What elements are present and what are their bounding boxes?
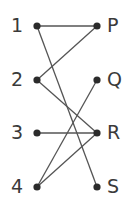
node-dot-R <box>93 129 100 136</box>
node-dot-4 <box>33 183 40 190</box>
node-label-P: P <box>107 16 118 35</box>
node-dot-1 <box>33 22 40 29</box>
edge-4-R <box>37 133 97 187</box>
node-label-4: 4 <box>11 177 23 196</box>
node-dot-Q <box>93 76 100 83</box>
node-dot-P <box>93 22 100 29</box>
node-label-2: 2 <box>11 70 23 89</box>
node-dot-3 <box>33 129 40 136</box>
node-label-3: 3 <box>11 123 23 142</box>
edge-2-P <box>37 26 97 80</box>
node-label-Q: Q <box>107 70 122 89</box>
node-label-1: 1 <box>11 16 23 35</box>
node-label-S: S <box>107 177 119 196</box>
node-dot-S <box>93 183 100 190</box>
edge-2-R <box>37 80 97 133</box>
node-label-R: R <box>107 123 120 142</box>
node-dot-2 <box>33 76 40 83</box>
